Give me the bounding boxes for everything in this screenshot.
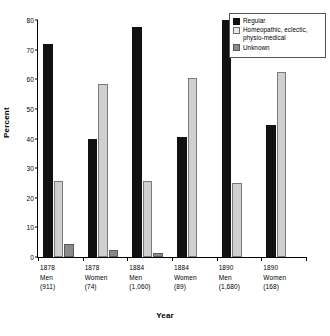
x-tick-label-line: (74): [85, 283, 97, 290]
x-tick-mark: [127, 257, 128, 261]
legend-label-homeopathic-line2: physio-medical: [243, 34, 286, 41]
x-tick-mark: [172, 257, 173, 261]
x-tick-label-line: Women: [85, 274, 108, 281]
x-tick-label: 1878Men(911): [40, 263, 55, 292]
bar-group: [38, 20, 83, 257]
x-tick-label-line: 1884: [174, 264, 189, 271]
bar-chart: 01020304050607080 1878Men(911)1878Women(…: [0, 0, 330, 336]
x-axis-title: Year: [0, 311, 330, 320]
bar-homeo: [232, 183, 242, 257]
legend-label-homeopathic-line1: Homeopathic, eclectic,: [243, 26, 307, 33]
x-tick-label-line: Men: [40, 274, 53, 281]
bar-homeo: [54, 181, 64, 257]
legend-swatch-homeopathic-icon: [233, 27, 240, 34]
bar-unknown: [64, 244, 74, 257]
x-tick-label-line: 1878: [40, 264, 55, 271]
y-axis-title: Percent: [2, 107, 11, 138]
bar-regular: [88, 139, 98, 258]
x-tick-label: 1878Women(74): [85, 263, 108, 292]
x-tick-mark: [306, 257, 307, 261]
bar-regular: [132, 27, 142, 257]
legend-label-regular: Regular: [243, 17, 265, 25]
x-tick-mark: [38, 257, 39, 261]
x-tick-label: 1890Women(168): [263, 263, 286, 292]
legend-item-unknown: Unknown: [233, 44, 322, 52]
chart-legend: Regular Homeopathic, eclectic,physio-med…: [229, 13, 326, 58]
x-tick-mark: [217, 257, 218, 261]
bar-unknown: [153, 253, 163, 257]
x-tick-label: 1890Men(1,680): [219, 263, 240, 292]
x-tick-label-line: Men: [219, 274, 232, 281]
bar-homeo: [188, 78, 198, 257]
x-tick-label-line: 1884: [129, 264, 144, 271]
x-tick-label-line: 1890: [219, 264, 234, 271]
legend-item-homeopathic: Homeopathic, eclectic,physio-medical: [233, 26, 322, 42]
x-tick-label-line: (1,680): [219, 283, 240, 290]
x-tick-label-line: (1,060): [129, 283, 150, 290]
bar-homeo: [98, 84, 108, 257]
x-tick-mark: [83, 257, 84, 261]
x-tick-label-line: 1878: [85, 264, 100, 271]
x-tick-label-line: (168): [263, 283, 279, 290]
legend-swatch-unknown-icon: [233, 44, 240, 51]
legend-label-homeopathic: Homeopathic, eclectic,physio-medical: [243, 26, 307, 42]
x-tick-label-line: (911): [40, 283, 55, 290]
bar-regular: [43, 44, 53, 257]
x-tick-label-line: 1890: [263, 264, 278, 271]
bar-group: [127, 20, 172, 257]
bar-regular: [266, 125, 276, 257]
bar-unknown: [109, 250, 119, 257]
x-tick-label-line: Women: [174, 274, 197, 281]
legend-swatch-regular-icon: [233, 18, 240, 25]
bar-regular: [177, 137, 187, 257]
bar-group: [83, 20, 128, 257]
legend-item-regular: Regular: [233, 17, 322, 25]
x-tick-labels: 1878Men(911)1878Women(74)1884Men(1,060)1…: [38, 263, 306, 311]
x-tick-label-line: Women: [263, 274, 286, 281]
x-tick-label-line: Men: [129, 274, 142, 281]
bar-homeo: [277, 72, 287, 257]
legend-label-unknown: Unknown: [243, 44, 270, 52]
x-tick-label: 1884Women(89): [174, 263, 197, 292]
x-tick-label-line: (89): [174, 283, 186, 290]
x-tick-label: 1884Men(1,060): [129, 263, 150, 292]
bar-homeo: [143, 181, 153, 257]
x-tick-mark: [261, 257, 262, 261]
bar-group: [172, 20, 217, 257]
